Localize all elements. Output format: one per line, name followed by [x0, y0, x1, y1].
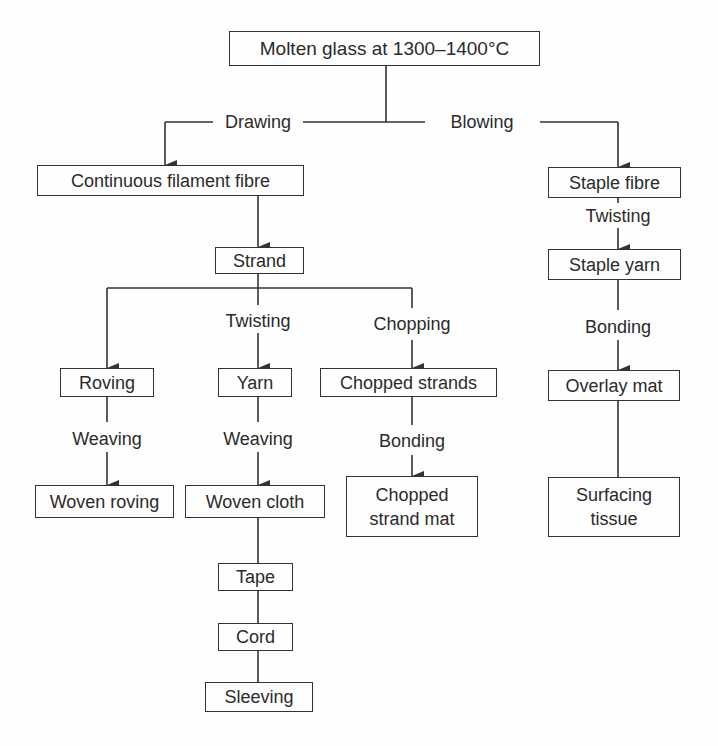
process-chopping: Chopping — [370, 313, 453, 335]
node-tape-label: Tape — [236, 565, 275, 589]
process-twisting-strand: Twisting — [222, 310, 293, 332]
node-chopped-strand-mat: Chopped strand mat — [346, 476, 478, 537]
node-continuous-filament-fibre: Continuous filament fibre — [37, 165, 304, 196]
node-staple-yarn-label: Staple yarn — [569, 253, 660, 277]
node-strand: Strand — [215, 247, 304, 274]
node-surfacing-tissue-line1: Surfacing — [576, 483, 652, 507]
node-cord-label: Cord — [236, 625, 275, 649]
node-staple-fibre-label: Staple fibre — [569, 171, 660, 195]
node-sleeving-label: Sleeving — [224, 685, 293, 709]
process-bonding-staple: Bonding — [582, 316, 654, 338]
node-continuous-filament-fibre-label: Continuous filament fibre — [71, 169, 270, 193]
node-woven-cloth-label: Woven cloth — [206, 490, 305, 514]
node-yarn-label: Yarn — [237, 371, 274, 395]
process-twisting-staple: Twisting — [582, 205, 653, 227]
node-woven-roving-label: Woven roving — [50, 490, 160, 514]
process-weaving-roving: Weaving — [69, 428, 145, 450]
node-overlay-mat: Overlay mat — [548, 370, 680, 401]
process-blowing: Blowing — [447, 111, 516, 133]
node-chopped-strands: Chopped strands — [320, 368, 497, 397]
process-weaving-yarn: Weaving — [220, 428, 296, 450]
node-molten-glass-label: Molten glass at 1300–1400°C — [260, 37, 510, 61]
node-cord: Cord — [218, 623, 293, 651]
node-woven-cloth: Woven cloth — [185, 485, 325, 518]
node-staple-yarn: Staple yarn — [548, 249, 681, 280]
node-yarn: Yarn — [218, 368, 292, 397]
node-chopped-strands-label: Chopped strands — [340, 371, 477, 395]
node-chopped-strand-mat-line2: strand mat — [369, 507, 454, 531]
node-tape: Tape — [218, 563, 293, 591]
glass-fibre-flowchart: Drawing Blowing Twisting Chopping Weavin… — [0, 0, 718, 746]
process-drawing: Drawing — [222, 111, 294, 133]
node-surfacing-tissue-line2: tissue — [590, 507, 637, 531]
node-roving-label: Roving — [79, 371, 135, 395]
node-sleeving: Sleeving — [205, 682, 313, 712]
node-overlay-mat-label: Overlay mat — [565, 374, 662, 398]
node-molten-glass: Molten glass at 1300–1400°C — [229, 31, 540, 66]
node-surfacing-tissue: Surfacing tissue — [548, 477, 680, 537]
process-bonding-chopped: Bonding — [376, 430, 448, 452]
node-strand-label: Strand — [233, 249, 286, 273]
node-roving: Roving — [60, 368, 154, 397]
node-woven-roving: Woven roving — [35, 485, 174, 518]
node-chopped-strand-mat-line1: Chopped — [375, 483, 448, 507]
node-staple-fibre: Staple fibre — [548, 167, 681, 198]
